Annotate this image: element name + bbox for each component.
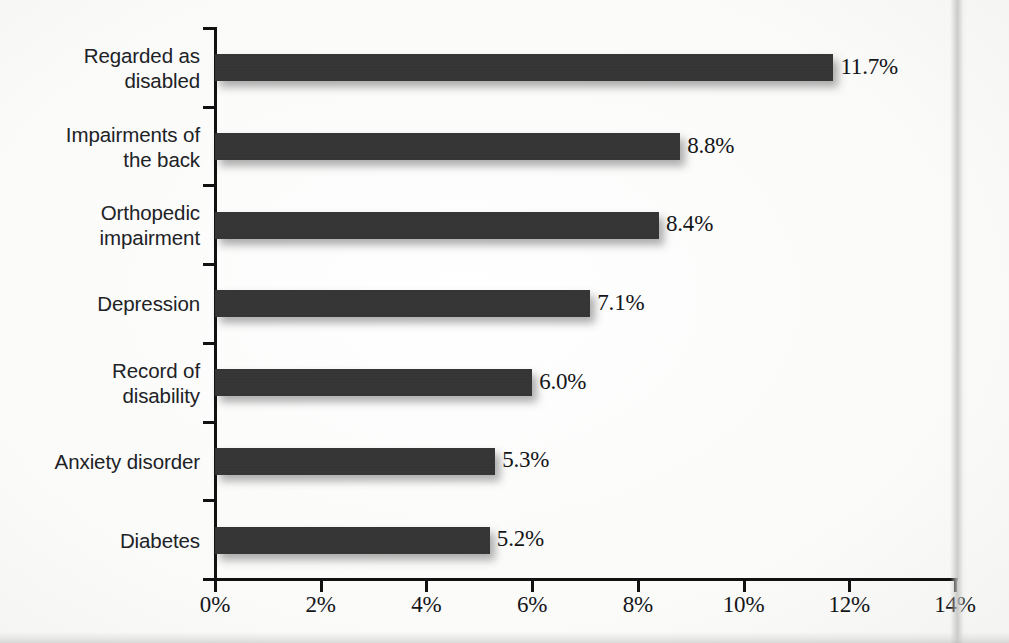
category-label-line: Orthopedic bbox=[0, 200, 200, 225]
bar-value-label: 5.2% bbox=[497, 527, 544, 553]
y-axis-tick bbox=[203, 342, 215, 345]
bar-value-label: 7.1% bbox=[597, 290, 644, 316]
x-axis-tick-label: 0% bbox=[200, 592, 230, 618]
category-label: Impairments ofthe back bbox=[0, 122, 200, 172]
bar-value-label: 11.7% bbox=[840, 54, 898, 80]
y-axis-tick bbox=[203, 27, 215, 30]
x-axis-line bbox=[214, 578, 958, 581]
bar-value-label: 8.4% bbox=[666, 212, 713, 238]
category-label: Record ofdisability bbox=[0, 358, 200, 408]
x-axis-tick bbox=[848, 581, 851, 592]
bar bbox=[215, 54, 833, 81]
bar-item: 6.0% bbox=[215, 369, 652, 396]
bar-item: 8.4% bbox=[215, 212, 779, 239]
x-axis-tick-label: 4% bbox=[411, 592, 441, 618]
x-axis-tick bbox=[320, 581, 323, 592]
y-axis-tick bbox=[203, 106, 215, 109]
x-axis-tick-label: 12% bbox=[829, 592, 871, 618]
bar bbox=[215, 212, 659, 239]
bar-item: 7.1% bbox=[215, 290, 710, 317]
category-label-line: Impairments of bbox=[0, 122, 200, 147]
category-label: Depression bbox=[0, 291, 200, 316]
x-axis-tick-label: 2% bbox=[306, 592, 336, 618]
y-axis-tick bbox=[203, 499, 215, 502]
category-label-line: Regarded as bbox=[0, 43, 200, 68]
bar bbox=[215, 448, 495, 475]
category-label-line: impairment bbox=[0, 225, 200, 250]
category-label-line: Anxiety disorder bbox=[0, 449, 200, 474]
x-axis-tick bbox=[743, 581, 746, 592]
x-axis-tick bbox=[531, 581, 534, 592]
bar-item: 5.2% bbox=[215, 527, 610, 554]
scan-edge-right bbox=[950, 0, 968, 643]
bar bbox=[215, 369, 532, 396]
x-axis-tick bbox=[637, 581, 640, 592]
category-label-line: disabled bbox=[0, 68, 200, 93]
category-label-line: Record of bbox=[0, 358, 200, 383]
x-axis-tick bbox=[214, 581, 217, 592]
x-axis-tick-label: 14% bbox=[934, 592, 976, 618]
category-label-line: Depression bbox=[0, 291, 200, 316]
x-axis-tick-label: 8% bbox=[623, 592, 653, 618]
category-label-line: the back bbox=[0, 147, 200, 172]
bar-item: 11.7% bbox=[215, 54, 953, 81]
bar bbox=[215, 133, 680, 160]
bar-chart-figure: 0%2%4%6%8%10%12%14% Regarded asdisabledI… bbox=[0, 0, 1009, 643]
x-axis-tick-label: 6% bbox=[517, 592, 547, 618]
category-label: Diabetes bbox=[0, 528, 200, 553]
y-axis-tick bbox=[203, 421, 215, 424]
bar bbox=[215, 527, 490, 554]
x-axis-tick bbox=[425, 581, 428, 592]
y-axis-tick bbox=[203, 263, 215, 266]
scan-edge-bottom bbox=[0, 632, 1009, 643]
category-label: Anxiety disorder bbox=[0, 449, 200, 474]
bar-value-label: 5.3% bbox=[502, 448, 549, 474]
bar-value-label: 8.8% bbox=[687, 133, 734, 159]
bar-item: 5.3% bbox=[215, 448, 615, 475]
category-label-line: disability bbox=[0, 383, 200, 408]
x-axis-tick-label: 10% bbox=[723, 592, 765, 618]
bar-item: 8.8% bbox=[215, 133, 800, 160]
y-axis-tick bbox=[203, 184, 215, 187]
bar bbox=[215, 290, 590, 317]
bar-value-label: 6.0% bbox=[539, 369, 586, 395]
category-label-line: Diabetes bbox=[0, 528, 200, 553]
category-label: Regarded asdisabled bbox=[0, 43, 200, 93]
x-axis-tick bbox=[954, 581, 957, 592]
category-label: Orthopedicimpairment bbox=[0, 200, 200, 250]
